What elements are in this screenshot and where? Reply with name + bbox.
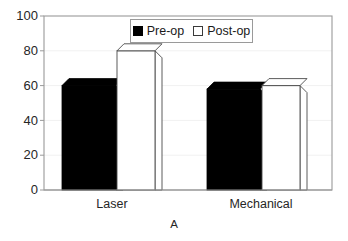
bar-mechanical-post-op: [262, 79, 307, 190]
x-tick-label-mechanical: Mechanical: [216, 198, 306, 211]
y-tick-label-100: 100: [4, 9, 38, 22]
figure-caption: A: [0, 218, 348, 230]
legend-entry-post-op: Post-op: [193, 25, 250, 38]
y-tick-label-40: 40: [4, 114, 38, 127]
y-tick-label-60: 60: [4, 79, 38, 92]
y-tick-label-0: 0: [4, 183, 38, 196]
bar-laser-pre-op: [62, 79, 123, 190]
bar-mechanical-pre-op: [207, 82, 267, 190]
y-tick-label-80: 80: [4, 44, 38, 57]
y-axis-labels: 100 80 60 40 20 0: [0, 0, 38, 241]
legend-entry-pre-op: Pre-op: [133, 25, 185, 38]
legend-label-pre-op: Pre-op: [147, 25, 185, 38]
legend-swatch-filled-icon: [133, 26, 143, 36]
legend-swatch-hollow-icon: [193, 26, 203, 36]
chart-legend: Pre-op Post-op: [130, 19, 253, 43]
bar-laser-post-op: [117, 44, 162, 190]
x-tick-label-laser: Laser: [72, 198, 152, 211]
y-tick-label-20: 20: [4, 148, 38, 161]
bar-chart-figure: 100 80 60 40 20 0 Laser Mechanical A Pre…: [0, 0, 348, 241]
legend-label-post-op: Post-op: [207, 25, 250, 38]
y-tick-marks: [40, 16, 44, 190]
